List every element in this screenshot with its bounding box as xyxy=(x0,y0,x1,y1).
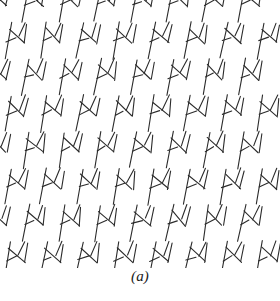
figure-root: (a) xyxy=(0,0,280,301)
texture-panel xyxy=(0,0,280,268)
texture-canvas xyxy=(0,0,280,268)
figure-caption: (a) xyxy=(0,266,280,286)
